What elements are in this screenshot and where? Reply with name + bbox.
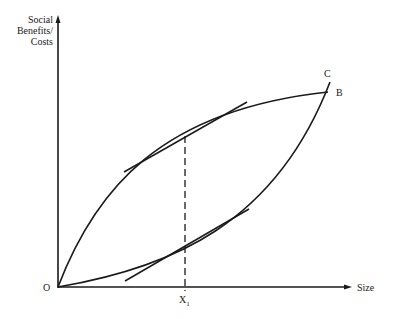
diagram-graphic <box>0 0 393 319</box>
x-axis-arrow-icon <box>344 285 352 290</box>
x1-label: X1 <box>179 294 190 310</box>
y-axis-label-line-3: Costs <box>17 36 53 47</box>
y-axis-label-line-1: Social <box>17 14 53 25</box>
curve-b <box>58 92 328 287</box>
tangent-line-lower <box>125 209 249 281</box>
curve-b-label: B <box>336 87 343 98</box>
curve-c <box>58 82 330 287</box>
y-axis-label-line-2: Benefits/ <box>17 25 53 36</box>
x-axis-label: Size <box>357 282 374 293</box>
y-axis-label: Social Benefits/ Costs <box>17 14 53 47</box>
curve-c-label: C <box>324 68 331 79</box>
origin-label: O <box>43 282 50 293</box>
diagram-canvas: Social Benefits/ Costs O Size C B X1 <box>0 0 393 319</box>
y-axis-arrow-icon <box>56 15 61 23</box>
x1-label-subscript: 1 <box>186 300 190 308</box>
